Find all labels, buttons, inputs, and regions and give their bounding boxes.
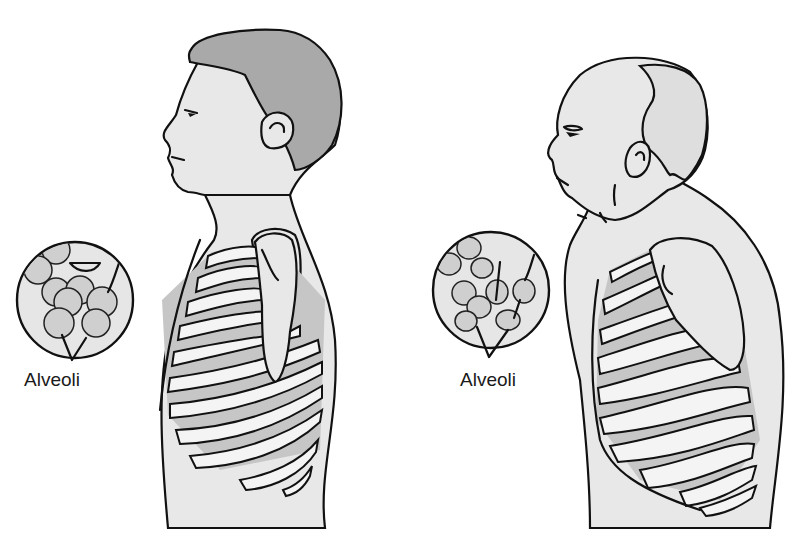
alveoli-label-elderly: Alveoli <box>460 369 516 391</box>
elderly-figure <box>548 58 783 528</box>
aging-respiratory-figure: Alveoli Alveoli <box>0 0 797 544</box>
elderly-alveoli-inset <box>433 232 549 357</box>
illustration <box>0 0 797 544</box>
alveoli-label-young: Alveoli <box>24 369 80 391</box>
young-figure <box>160 30 342 528</box>
young-alveoli-inset <box>17 236 133 360</box>
